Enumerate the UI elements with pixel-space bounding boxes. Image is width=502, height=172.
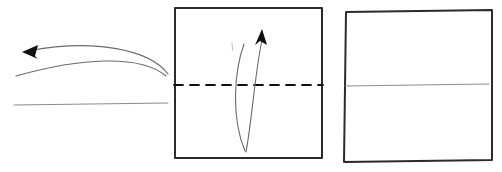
fold-diagram-root [0, 0, 502, 172]
folded-result-panel [344, 10, 492, 162]
fold-diagram-canvas [0, 0, 502, 172]
fold-square-panel [174, 8, 323, 158]
crease-tick-mark [232, 43, 233, 50]
